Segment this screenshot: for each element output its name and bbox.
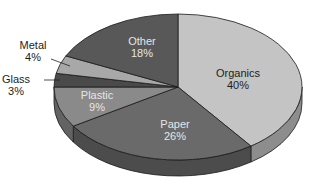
label-other: Other 18% xyxy=(117,35,167,59)
label-metal: Metal 4% xyxy=(16,39,50,63)
label-plastic: Plastic 9% xyxy=(72,89,122,113)
label-organics: Organics 40% xyxy=(208,67,268,91)
label-paper: Paper 26% xyxy=(150,118,200,142)
label-glass: Glass 3% xyxy=(0,73,32,97)
pie-chart xyxy=(0,0,314,187)
